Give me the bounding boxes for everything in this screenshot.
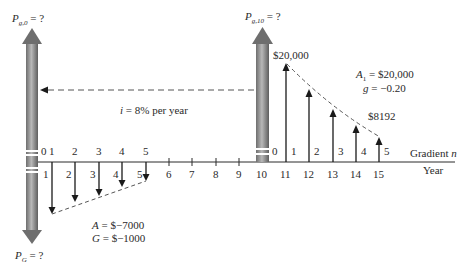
svg-text:4: 4 <box>119 145 125 157</box>
right-top-label: Pg,10 = ? <box>244 10 281 25</box>
year-axis-label: Year <box>423 164 444 176</box>
svg-text:1: 1 <box>43 168 49 180</box>
first-cash-flow-label: $20,000 <box>273 49 309 61</box>
svg-text:2: 2 <box>66 168 72 180</box>
a1-label: A1 = $20,000 <box>355 68 414 83</box>
right-present-worth-arrow <box>252 27 273 162</box>
dashed-transfer-arrow <box>40 87 254 94</box>
svg-text:0: 0 <box>272 145 278 157</box>
svg-text:4: 4 <box>113 168 119 180</box>
left-gradient-n-labels: 0 1 2 3 4 5 <box>41 145 149 157</box>
left-bottom-label: PG = ? <box>14 249 44 264</box>
svg-text:3: 3 <box>96 145 102 157</box>
last-cash-flow-label: $8192 <box>368 110 396 122</box>
left-present-worth-arrow <box>22 28 42 244</box>
gradient-amount-label: G = $−1000 <box>92 232 146 244</box>
svg-text:2: 2 <box>72 145 78 157</box>
svg-text:4: 4 <box>361 145 367 157</box>
svg-text:1: 1 <box>49 145 55 157</box>
svg-text:12: 12 <box>303 168 314 180</box>
svg-text:11: 11 <box>280 168 291 180</box>
svg-text:6: 6 <box>166 168 172 180</box>
interest-rate-label: i = 8% per year <box>120 104 188 116</box>
g-rate-label: g = −0.20 <box>363 82 406 94</box>
svg-text:10: 10 <box>256 168 268 180</box>
cash-flow-diagram: i = 8% per year 0 1 2 3 4 5 <box>0 0 466 269</box>
svg-text:3: 3 <box>338 145 344 157</box>
svg-text:3: 3 <box>90 168 96 180</box>
left-top-label: Pg,0 = ? <box>11 12 44 27</box>
right-gradient-n-labels: 0 1 2 3 4 5 <box>272 145 390 157</box>
svg-text:5: 5 <box>137 168 143 180</box>
annual-amount-label: A = $−7000 <box>91 219 145 231</box>
year-labels: 1 2 3 4 5 6 7 8 9 10 11 12 13 14 15 <box>43 168 385 180</box>
svg-text:1: 1 <box>291 145 297 157</box>
svg-text:7: 7 <box>189 168 195 180</box>
svg-text:13: 13 <box>327 168 339 180</box>
svg-text:5: 5 <box>384 145 390 157</box>
svg-text:2: 2 <box>314 145 320 157</box>
svg-text:0: 0 <box>41 145 47 157</box>
gradient-n-axis-label: Gradient n <box>410 147 457 159</box>
svg-text:14: 14 <box>350 168 362 180</box>
svg-text:15: 15 <box>373 168 385 180</box>
svg-text:5: 5 <box>143 145 149 157</box>
svg-text:9: 9 <box>236 168 242 180</box>
svg-text:8: 8 <box>213 168 219 180</box>
